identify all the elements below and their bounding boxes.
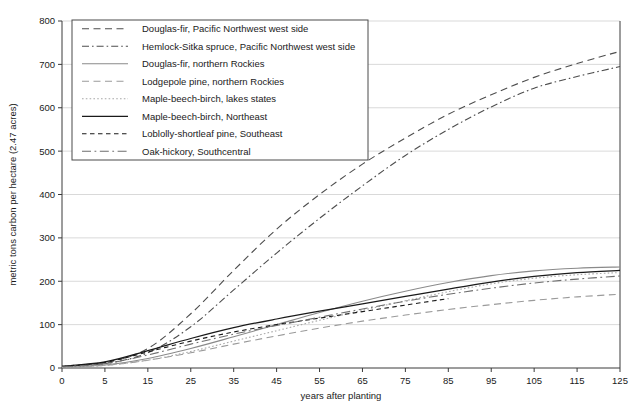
x-tick-label: 15 (143, 375, 154, 386)
y-tick-label: 200 (39, 276, 55, 287)
y-tick-label: 400 (39, 189, 55, 200)
legend-label: Maple-beech-birch, Northeast (142, 111, 268, 122)
legend: Douglas-fir, Pacific Northwest west side… (72, 20, 368, 160)
series-line-4 (62, 273, 620, 368)
y-tick-label: 0 (50, 362, 55, 373)
x-tick-label: 25 (185, 375, 196, 386)
x-tick-label: 45 (271, 375, 282, 386)
y-axis-title: metric tons carbon per hectare (2.47 acr… (7, 103, 18, 285)
x-tick-label: 55 (314, 375, 325, 386)
series-line-2 (62, 267, 620, 367)
legend-label: Douglas-fir, Pacific Northwest west side (142, 23, 308, 34)
legend-label: Oak-hickory, Southcentral (142, 146, 251, 157)
x-tick-label: 5 (102, 375, 107, 386)
y-tick-label: 500 (39, 146, 55, 157)
y-tick-label: 600 (39, 102, 55, 113)
legend-label: Loblolly-shortleaf pine, Southeast (142, 128, 283, 139)
x-tick-label: 35 (228, 375, 239, 386)
x-axis-title: years after planting (301, 390, 382, 401)
carbon-accumulation-chart: 0100200300400500600700800051525354555657… (0, 0, 634, 404)
chart-canvas: 0100200300400500600700800051525354555657… (0, 0, 634, 404)
y-axis-ticks: 0100200300400500600700800 (39, 15, 62, 373)
series-line-3 (62, 294, 620, 367)
legend-label: Hemlock-Sitka spruce, Pacific Northwest … (142, 41, 355, 52)
x-tick-label: 65 (357, 375, 368, 386)
x-tick-label: 95 (486, 375, 497, 386)
y-tick-label: 300 (39, 232, 55, 243)
series-line-6 (62, 299, 448, 367)
y-tick-label: 100 (39, 319, 55, 330)
x-tick-label: 125 (612, 375, 628, 386)
x-tick-label: 0 (59, 375, 64, 386)
x-axis-ticks: 05152535455565758595105115125 (59, 368, 628, 386)
y-tick-label: 800 (39, 15, 55, 26)
series-line-7 (62, 276, 620, 367)
legend-label: Lodgepole pine, northern Rockies (142, 76, 284, 87)
legend-label: Maple-beech-birch, lakes states (142, 93, 276, 104)
legend-label: Douglas-fir, northern Rockies (142, 58, 265, 69)
y-tick-label: 700 (39, 59, 55, 70)
x-tick-label: 85 (443, 375, 454, 386)
x-tick-label: 75 (400, 375, 411, 386)
x-tick-label: 115 (570, 375, 585, 386)
series-line-5 (62, 270, 620, 366)
x-tick-label: 105 (526, 375, 542, 386)
